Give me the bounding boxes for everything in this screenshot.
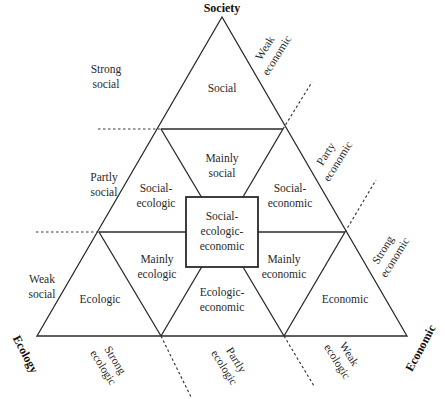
region-social-ecologic-1: Social- [140,182,173,194]
region-mainly-social-2: social [209,167,236,179]
dash-bottom-right [284,336,314,386]
dash-right-middle [345,180,376,232]
region-economic: Economic [322,293,369,305]
region-center-3: economic [200,240,245,252]
vertex-society: Society [204,1,241,15]
region-ecologic: Ecologic [80,293,121,306]
region-social-economic-1: Social- [274,182,307,194]
sustainability-triangle-diagram: Society Ecology Economic Social Mainly s… [0,0,445,399]
region-center-1: Social- [206,210,239,222]
region-ecologic-economic-1: Ecologic- [200,286,245,299]
side-strong-social-1: Strong [91,63,122,76]
region-mainly-social-1: Mainly [205,152,238,165]
region-center-2: ecologic- [201,225,244,238]
side-partly-economic: Party economic [309,132,355,184]
side-partly-ecologic: Partly ecologic [208,340,252,387]
side-partly-social-2: social [91,186,118,198]
side-weak-economic: Weak economic [248,26,294,78]
diagonal-left-lower [99,232,161,336]
dash-bottom-left [161,336,191,397]
side-weak-social-1: Weak [29,273,55,285]
side-weak-ecologic: Weak ecologic [321,334,365,381]
side-strong-economic: Strong economic [366,228,412,280]
vertex-economic: Economic [402,322,438,374]
diagonal-right-lower [284,232,345,336]
region-social: Social [208,82,237,94]
region-social-ecologic-2: ecologic [137,197,176,210]
side-weak-social-2: social [29,288,56,300]
region-ecologic-economic-2: economic [200,301,245,313]
region-mainly-economic-2: economic [262,268,307,280]
vertex-ecology: Ecology [10,333,41,375]
region-social-economic-2: economic [268,197,313,209]
region-mainly-ecologic-2: ecologic [138,268,177,281]
side-strong-social-2: social [93,78,120,90]
dash-right-upper [283,82,312,129]
side-partly-social-1: Partly [90,171,118,184]
region-mainly-ecologic-1: Mainly [140,253,173,266]
side-strong-ecologic: Strong ecologic [87,340,131,387]
region-mainly-economic-1: Mainly [267,253,300,266]
